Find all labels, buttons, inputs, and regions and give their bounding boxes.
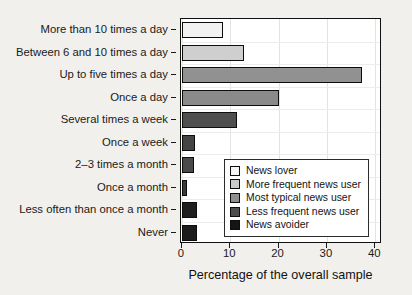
x-axis-tick-label: 20 <box>271 247 284 259</box>
legend-item: News lover <box>230 164 362 178</box>
x-axis: 010203040 <box>180 243 381 259</box>
bar <box>182 112 237 128</box>
y-axis-tick-label: Several times a week <box>61 108 168 131</box>
legend-color-swatch <box>230 207 240 217</box>
y-axis-tick-label: Never <box>138 221 168 244</box>
y-axis-tick-mark <box>171 97 176 98</box>
legend-item: Most typical news user <box>230 191 362 205</box>
bar <box>182 135 195 151</box>
legend-item: News avoider <box>230 218 362 232</box>
y-axis-tick-label: Between 6 and 10 times a day <box>16 41 168 64</box>
y-axis-tick-label: Once a month <box>97 176 168 199</box>
bar-row <box>182 109 381 132</box>
bar-row <box>182 64 381 87</box>
bar <box>182 67 362 83</box>
bar <box>182 180 187 196</box>
legend-color-swatch <box>230 166 240 176</box>
legend-item-label: News avoider <box>246 218 309 232</box>
bar <box>182 22 223 38</box>
x-axis-tick-label: 40 <box>368 247 381 259</box>
y-axis-tick-label: Once a day <box>110 86 168 109</box>
bar-chart-figure: More than 10 times a dayBetween 6 and 10… <box>0 0 412 295</box>
chart-legend: News loverMore frequent news userMost ty… <box>224 159 369 237</box>
bar <box>182 45 244 61</box>
y-axis-tick-mark <box>171 29 176 30</box>
legend-item-label: More frequent news user <box>246 178 361 192</box>
legend-item-label: News lover <box>246 164 297 178</box>
bar-row <box>182 87 381 110</box>
legend-item-label: Most typical news user <box>246 191 351 205</box>
y-axis-tick-mark <box>171 187 176 188</box>
legend-item-label: Less frequent news user <box>246 205 359 219</box>
legend-color-swatch <box>230 179 240 189</box>
x-axis-title: Percentage of the overall sample <box>180 268 381 282</box>
y-axis-tick-mark <box>171 209 176 210</box>
bar-row <box>182 42 381 65</box>
bar <box>182 225 197 241</box>
bar-row <box>182 132 381 155</box>
y-axis-tick-mark <box>171 119 176 120</box>
x-axis-tick-label: 30 <box>320 247 333 259</box>
x-axis-tick-label: 10 <box>223 247 236 259</box>
y-axis-tick-label: Once a week <box>102 131 168 154</box>
y-axis-tick-label: Up to five times a day <box>59 63 168 86</box>
y-axis-tick-mark <box>171 232 176 233</box>
y-axis-tick-label: More than 10 times a day <box>41 18 168 41</box>
bar-row <box>182 19 381 42</box>
y-axis-labels: More than 10 times a dayBetween 6 and 10… <box>0 18 176 243</box>
bar <box>182 90 279 106</box>
legend-color-swatch <box>230 220 240 230</box>
legend-item: Less frequent news user <box>230 205 362 219</box>
bar <box>182 157 194 173</box>
legend-item: More frequent news user <box>230 178 362 192</box>
y-axis-tick-mark <box>171 164 176 165</box>
y-axis-tick-mark <box>171 74 176 75</box>
x-axis-tick-label: 0 <box>178 247 184 259</box>
legend-color-swatch <box>230 193 240 203</box>
y-axis-tick-mark <box>171 52 176 53</box>
y-axis-tick-label: 2–3 times a month <box>75 153 168 176</box>
y-axis-tick-mark <box>171 142 176 143</box>
bar <box>182 202 197 218</box>
y-axis-tick-label: Less often than once a month <box>19 198 168 221</box>
